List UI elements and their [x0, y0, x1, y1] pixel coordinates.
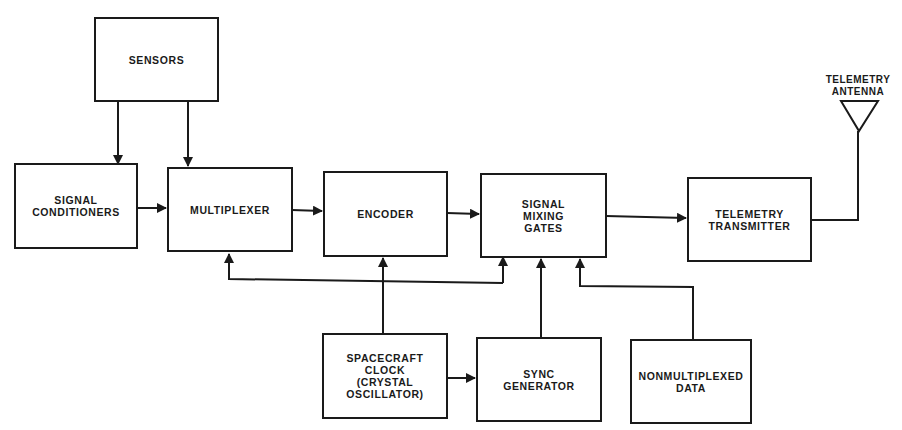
line-transmitter-to-antenna: [811, 131, 858, 220]
block-sensors: SENSORS: [94, 17, 219, 102]
block-label: SENSORS: [129, 54, 185, 66]
block-label: SIGNAL CONDITIONERS: [32, 194, 120, 218]
arrow-encoder-to-mixing-gates: [447, 213, 479, 214]
block-label: TELEMETRY TRANSMITTER: [709, 208, 791, 232]
block-sync-generator: SYNC GENERATOR: [476, 337, 602, 422]
block-label: MULTIPLEXER: [190, 204, 270, 216]
block-label: ENCODER: [357, 208, 414, 220]
block-label: NONMULTIPLEXED DATA: [638, 370, 743, 394]
antenna-icon: [841, 101, 878, 131]
arrow-mixing-gates-to-transmitter: [606, 216, 686, 218]
block-label: SIGNAL MIXING GATES: [522, 198, 565, 234]
block-multiplexer: MULTIPLEXER: [167, 167, 293, 252]
block-signal-conditioners: SIGNAL CONDITIONERS: [14, 163, 138, 249]
block-telemetry-transmitter: TELEMETRY TRANSMITTER: [687, 177, 812, 262]
block-label: SPACECRAFT CLOCK (CRYSTAL OSCILLATOR): [346, 352, 423, 400]
antenna-label: TELEMETRY ANTENNA: [812, 74, 902, 98]
telemetry-block-diagram: SENSORS SIGNAL CONDITIONERS MULTIPLEXER …: [0, 0, 902, 430]
block-nonmultiplexed-data: NONMULTIPLEXED DATA: [630, 339, 752, 424]
block-encoder: ENCODER: [323, 171, 448, 257]
arrow-multiplexer-to-encoder: [292, 210, 322, 211]
block-spacecraft-clock: SPACECRAFT CLOCK (CRYSTAL OSCILLATOR): [322, 333, 448, 419]
block-signal-mixing-gates: SIGNAL MIXING GATES: [480, 173, 607, 258]
block-label: SYNC GENERATOR: [503, 368, 575, 392]
arrow-nonmultiplexed-to-mixing-gates: [580, 259, 693, 340]
arrow-clock-bus-to-multiplexer: [229, 254, 503, 283]
